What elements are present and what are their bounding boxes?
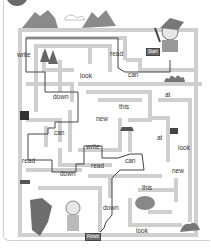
- maze-word: read: [91, 163, 104, 170]
- tree-icon: [40, 48, 58, 64]
- maze-word: read: [22, 158, 35, 165]
- finish-sign: Finish: [85, 233, 101, 241]
- maze-word: look: [80, 73, 92, 80]
- figures-icon: [170, 128, 178, 134]
- maze-word: write: [17, 52, 31, 59]
- maze-word: down: [53, 94, 69, 101]
- bush-icon: [164, 76, 185, 83]
- turtle-icon: [135, 196, 155, 210]
- maze-word: at: [165, 92, 170, 99]
- cloud-icon: [65, 15, 85, 20]
- maze-word: new: [172, 168, 184, 175]
- maze-word: can: [125, 158, 135, 165]
- house-icon: [20, 111, 29, 120]
- figures-icon: [20, 180, 30, 184]
- maze-word: read: [110, 51, 123, 58]
- mountain-icon: [82, 10, 116, 28]
- maze-word: down: [103, 205, 119, 212]
- maze-word: down: [60, 171, 76, 178]
- maze-word: this: [119, 104, 129, 111]
- maze-word: this: [142, 185, 152, 192]
- maze-word: look: [136, 228, 148, 235]
- maze-word: can: [54, 130, 64, 137]
- car-icon: [120, 127, 134, 131]
- maze-word: write: [86, 144, 100, 151]
- mountain-icon: [22, 10, 58, 28]
- red-riding-hood-icon: [66, 201, 80, 231]
- wolf-icon: [30, 198, 52, 236]
- woodcutter-character-icon: [155, 18, 184, 52]
- maze-word: new: [96, 116, 108, 123]
- maze-word: look: [178, 145, 190, 152]
- maze-word: can: [128, 72, 138, 79]
- maze-word: at: [157, 135, 162, 142]
- start-sign: Start: [146, 48, 160, 56]
